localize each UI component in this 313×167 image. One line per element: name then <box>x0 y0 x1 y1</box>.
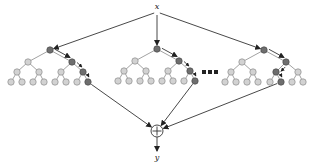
ellipsis-dot <box>214 70 218 74</box>
tree-node <box>36 69 42 75</box>
tree-node-active <box>192 78 198 84</box>
tree-node <box>63 79 69 85</box>
tree-edge <box>28 50 50 62</box>
tree-node <box>267 79 273 85</box>
tree-node <box>52 79 58 85</box>
decision-path-arrow <box>162 48 177 56</box>
tree-node <box>233 79 239 85</box>
tree-node <box>41 79 47 85</box>
tree-edges <box>11 49 303 82</box>
tree-edge <box>157 49 179 61</box>
tree-node <box>115 78 121 84</box>
input-to-tree-arrow <box>54 13 154 49</box>
tree-node <box>170 78 176 84</box>
tree-node <box>132 58 138 64</box>
tree-node <box>222 79 228 85</box>
decision-path-arrow <box>184 61 189 66</box>
tree-node <box>250 69 256 75</box>
random-forest-diagram: x y <box>0 0 313 167</box>
tree-nodes <box>8 46 306 85</box>
output-label-y: y <box>154 153 160 162</box>
decision-path-arrow <box>87 74 88 77</box>
tree-node-active <box>278 79 284 85</box>
decision-path-arrow <box>269 49 284 57</box>
input-to-tree-arrow <box>160 13 260 49</box>
tree-node-active <box>261 47 267 53</box>
tree-node <box>295 69 301 75</box>
tree-edge <box>242 50 264 62</box>
tree-node <box>244 79 250 85</box>
ellipsis-more-trees <box>202 70 218 74</box>
tree-node <box>74 79 80 85</box>
tree-node <box>121 68 127 74</box>
decision-path-arrow <box>77 62 82 67</box>
decision-path-arrow <box>281 67 285 71</box>
ellipsis-dot <box>208 70 212 74</box>
tree-node-active <box>80 69 86 75</box>
tree-node <box>143 68 149 74</box>
ellipsis-dot <box>202 70 206 74</box>
input-label-x: x <box>155 2 160 11</box>
tree-node <box>159 78 165 84</box>
tree-node <box>137 78 143 84</box>
tree-output-arrow <box>91 84 151 127</box>
tree-node-active <box>187 68 193 74</box>
decision-path-arrow <box>55 49 70 57</box>
sum-combiner-node <box>151 125 163 137</box>
tree-node <box>25 59 31 65</box>
tree-node <box>14 69 20 75</box>
tree-node <box>255 79 261 85</box>
tree-edge <box>50 50 72 62</box>
tree-node <box>228 69 234 75</box>
tree-node <box>8 79 14 85</box>
tree-node-active <box>283 59 289 65</box>
tree-node <box>148 78 154 84</box>
tree-node <box>181 78 187 84</box>
tree-node-active <box>273 69 279 75</box>
decision-path-arrow <box>194 73 195 76</box>
tree-node-active <box>69 59 75 65</box>
tree-node-active <box>85 79 91 85</box>
tree-node <box>19 79 25 85</box>
decision-path-arrow <box>280 74 281 77</box>
tree-node <box>58 69 64 75</box>
tree-node <box>165 68 171 74</box>
tree-node <box>300 79 306 85</box>
tree-node-active <box>176 58 182 64</box>
tree-node-active <box>47 47 53 53</box>
tree-node <box>289 79 295 85</box>
tree-edge <box>264 50 286 62</box>
tree-node <box>30 79 36 85</box>
tree-node <box>126 78 132 84</box>
diagram-canvas: x y <box>0 0 313 167</box>
tree-node-active <box>154 46 160 52</box>
tree-edge <box>135 49 157 61</box>
tree-output-arrow <box>164 83 278 128</box>
tree-node <box>239 59 245 65</box>
